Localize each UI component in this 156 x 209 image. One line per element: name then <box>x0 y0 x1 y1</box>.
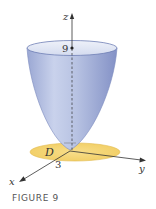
region-label: D <box>44 146 54 159</box>
radius-label: 3 <box>55 159 61 170</box>
figure-caption: FIGURE 9 <box>12 193 59 203</box>
x-axis-arrow-icon <box>19 176 26 182</box>
height-label: 9 <box>62 43 68 54</box>
z-axis-arrow-icon <box>70 13 74 19</box>
paraboloid-figure: z 9 D 3 y x <box>0 0 156 209</box>
x-axis-label: x <box>9 176 15 187</box>
y-axis-arrow-icon <box>139 158 146 163</box>
height-point <box>70 46 73 49</box>
z-axis-label: z <box>62 11 69 22</box>
y-axis-label: y <box>138 163 145 174</box>
